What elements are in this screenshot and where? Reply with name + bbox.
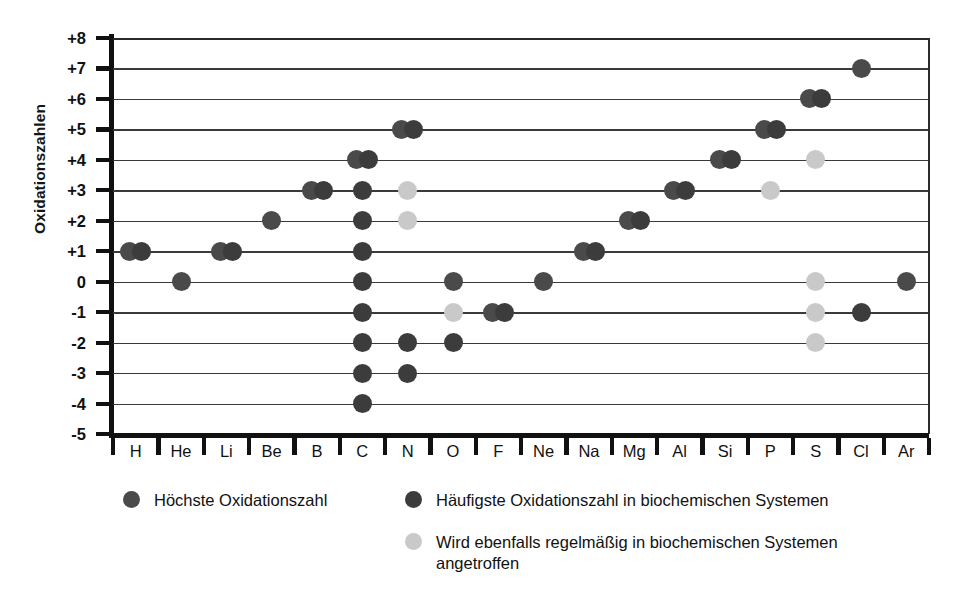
y-axis-tick <box>96 280 113 284</box>
y-axis-tick-label: +8 <box>42 30 86 47</box>
y-axis-tick-label: +5 <box>42 121 86 138</box>
legend-label: Wird ebenfalls regelmäßig in biochemisch… <box>436 532 838 574</box>
legend-entry: Höchste Oxidationszahl <box>123 490 327 511</box>
gridline <box>113 68 929 69</box>
plot-area <box>113 38 929 434</box>
data-point <box>444 303 463 322</box>
data-point <box>676 181 695 200</box>
y-axis-tick <box>96 66 113 70</box>
y-axis-tick-label: +2 <box>42 213 86 230</box>
y-axis-tick-label: +6 <box>42 91 86 108</box>
data-point <box>812 89 831 108</box>
x-axis-spine <box>109 433 929 438</box>
y-axis-tick <box>96 341 113 345</box>
gridline <box>113 373 929 374</box>
data-point <box>852 303 871 322</box>
data-point <box>722 150 741 169</box>
gridline <box>113 129 929 130</box>
y-axis-tick <box>96 127 113 131</box>
y-axis-tick-label: -3 <box>42 365 86 382</box>
data-point <box>897 272 916 291</box>
y-axis-tick-label: +7 <box>42 60 86 77</box>
y-axis-tick-label: +3 <box>42 182 86 199</box>
data-point <box>806 272 825 291</box>
legend: Höchste OxidationszahlHäufigste Oxidatio… <box>0 488 958 608</box>
data-point <box>444 333 463 352</box>
oxidation-numbers-chart: Oxidationszahlen +8+7+6+5+4+3+2+10-1-2-3… <box>0 0 958 611</box>
data-point <box>761 181 780 200</box>
y-axis-tick <box>96 219 113 223</box>
data-point <box>359 150 378 169</box>
legend-label: Höchste Oxidationszahl <box>154 490 327 511</box>
y-axis-tick <box>96 310 113 314</box>
data-point <box>495 303 514 322</box>
data-point <box>353 333 372 352</box>
plot-right-border <box>928 38 930 434</box>
y-axis-tick-label: +1 <box>42 243 86 260</box>
gridline <box>113 221 929 222</box>
y-axis-tick <box>96 402 113 406</box>
data-point <box>398 211 417 230</box>
data-point <box>534 272 553 291</box>
y-axis-tick-label: -5 <box>42 426 86 443</box>
data-point <box>353 211 372 230</box>
data-point <box>172 272 191 291</box>
data-point <box>314 181 333 200</box>
data-point <box>767 120 786 139</box>
legend-swatch-highest <box>123 491 140 508</box>
legend-entry: Häufigste Oxidationszahl in biochemische… <box>405 490 829 511</box>
y-axis-tick <box>96 158 113 162</box>
legend-entry: Wird ebenfalls regelmäßig in biochemisch… <box>405 532 838 574</box>
data-point <box>262 211 281 230</box>
y-axis-tick-label: +4 <box>42 152 86 169</box>
data-point <box>353 394 372 413</box>
y-axis-tick <box>96 97 113 101</box>
y-axis-tick <box>96 188 113 192</box>
data-point <box>353 242 372 261</box>
y-axis-tick <box>96 371 113 375</box>
gridline <box>113 404 929 405</box>
data-point <box>404 120 423 139</box>
data-point <box>444 272 463 291</box>
y-axis-tick <box>96 36 113 40</box>
y-axis-tick-label: -2 <box>42 335 86 352</box>
gridline <box>113 38 929 40</box>
data-point <box>353 272 372 291</box>
data-point <box>398 333 417 352</box>
data-point <box>631 211 650 230</box>
y-axis-tick <box>96 249 113 253</box>
legend-label: Häufigste Oxidationszahl in biochemische… <box>436 490 829 511</box>
data-point <box>586 242 605 261</box>
x-axis-tick-label: Ar <box>876 443 936 460</box>
gridline <box>113 190 929 191</box>
y-axis-tick-label: -4 <box>42 396 86 413</box>
data-point <box>852 59 871 78</box>
data-point <box>132 242 151 261</box>
data-point <box>223 242 242 261</box>
y-axis-tick-label: 0 <box>42 274 86 291</box>
data-point <box>398 364 417 383</box>
data-point <box>806 303 825 322</box>
data-point <box>353 364 372 383</box>
data-point <box>353 303 372 322</box>
data-point <box>806 150 825 169</box>
y-axis-tick-label: -1 <box>42 304 86 321</box>
data-point <box>806 333 825 352</box>
legend-swatch-frequent <box>405 491 422 508</box>
legend-swatch-alsofound <box>405 533 422 550</box>
data-point <box>353 181 372 200</box>
data-point <box>398 181 417 200</box>
